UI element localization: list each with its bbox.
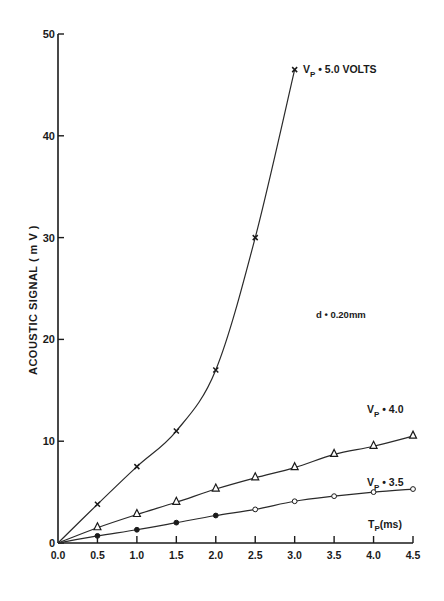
series-label-4v: VP • 4.0 — [367, 403, 404, 419]
x-tick-label: 2.5 — [248, 549, 263, 561]
x-marker — [174, 429, 179, 434]
x-tick-label: 3.5 — [327, 549, 342, 561]
circle-marker — [292, 499, 297, 504]
x-marker — [134, 464, 139, 469]
triangle-marker — [133, 509, 140, 516]
triangle-marker — [212, 484, 219, 491]
y-axis-label: ACOUSTIC SIGNAL ( m V ) — [27, 225, 39, 375]
series-curve — [58, 489, 413, 543]
triangle-marker — [291, 463, 298, 470]
x-tick-label: 3.0 — [287, 549, 302, 561]
circle-marker — [134, 527, 139, 532]
series-label-5v: VP • 5.0 VOLTS — [303, 63, 377, 79]
y-tick-label: 30 — [43, 232, 55, 244]
circle-marker — [213, 513, 218, 518]
triangle-marker — [252, 473, 259, 480]
circle-marker — [332, 494, 337, 499]
y-tick-label: 50 — [43, 28, 55, 40]
x-tick-label: 1.0 — [130, 549, 145, 561]
y-tick-label: 20 — [43, 333, 55, 345]
triangle-marker — [331, 449, 338, 456]
triangle-marker — [410, 431, 417, 438]
triangle-marker — [173, 497, 180, 504]
x-marker — [213, 367, 218, 372]
y-tick-label: 40 — [43, 130, 55, 142]
x-tick-label: 4.0 — [366, 549, 381, 561]
y-tick-label: 0 — [49, 537, 55, 549]
y-tick-label: 10 — [43, 435, 55, 447]
circle-marker — [174, 520, 179, 525]
markers — [94, 67, 417, 538]
series-curve — [58, 70, 295, 543]
acoustic-signal-chart: 010203040500.00.51.01.52.02.53.03.54.04.… — [0, 0, 444, 601]
series-curve — [58, 436, 413, 543]
annotation-gap-distance: d • 0.20mm — [316, 309, 366, 320]
x-tick-label: 2.0 — [208, 549, 223, 561]
triangle-marker — [370, 441, 377, 448]
x-tick-label: 0.0 — [51, 549, 66, 561]
circle-marker — [253, 507, 258, 512]
x-axis-label: TP(ms) — [368, 518, 402, 533]
x-marker — [95, 502, 100, 507]
curves — [58, 70, 413, 543]
x-tick-label: 1.5 — [169, 549, 184, 561]
x-tick-label: 0.5 — [90, 549, 105, 561]
circle-marker — [95, 533, 100, 538]
circle-marker — [411, 487, 416, 492]
x-tick-label: 4.5 — [406, 549, 421, 561]
axes: 010203040500.00.51.01.52.02.53.03.54.04.… — [43, 28, 421, 561]
